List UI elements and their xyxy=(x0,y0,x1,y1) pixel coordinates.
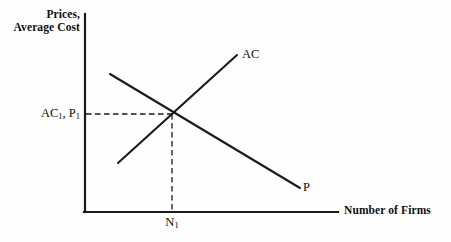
y-axis-tick-label-ac1-p1: AC1, P1 xyxy=(8,106,80,120)
tick-subscript-1a: 1 xyxy=(58,111,62,121)
tick-subscript-n1: 1 xyxy=(174,220,178,230)
tick-subscript-1b: 1 xyxy=(76,111,80,121)
ac-curve-label: AC xyxy=(242,47,259,61)
tick-text-ac: AC xyxy=(41,106,58,120)
p-curve-line xyxy=(110,74,300,188)
x-axis-tick-label-n1: N1 xyxy=(152,215,192,229)
x-axis-title: Number of Firms xyxy=(344,204,431,217)
y-axis-title: Prices, Average Cost xyxy=(0,8,80,34)
economics-diagram-figure: Prices, Average Cost AC1, P1 N1 Number o… xyxy=(0,0,451,242)
y-axis-title-line2: Average Cost xyxy=(0,21,80,34)
ac-curve-line xyxy=(118,55,237,163)
p-curve-label: P xyxy=(303,180,310,194)
tick-text-p: , P xyxy=(63,106,76,120)
y-axis-title-line1: Prices, xyxy=(0,8,80,21)
